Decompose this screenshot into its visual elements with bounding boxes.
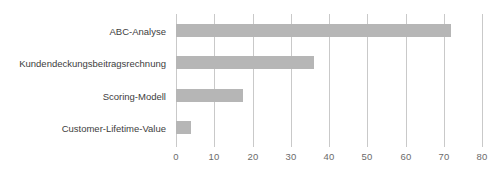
xtick-label-40: 40: [309, 151, 349, 162]
bar-kundendeckungsbeitragsrechnung: [176, 56, 314, 69]
axis-tick-30: [291, 142, 292, 147]
axis-tick-20: [253, 142, 254, 147]
axis-tick-60: [406, 142, 407, 147]
xtick-label-0: 0: [156, 151, 196, 162]
category-label-scoring-modell: Scoring-Modell: [103, 91, 166, 102]
axis-tick-40: [329, 142, 330, 147]
xtick-label-50: 50: [347, 151, 387, 162]
axis-tick-0: [176, 142, 177, 147]
bar-abc-analyse: [176, 24, 451, 37]
xtick-label-70: 70: [424, 151, 464, 162]
bar-customer-lifetime-value: [176, 121, 191, 134]
category-label-customer-lifetime-value: Customer-Lifetime-Value: [62, 123, 166, 134]
xtick-label-10: 10: [194, 151, 234, 162]
xtick-label-20: 20: [233, 151, 273, 162]
axis-tick-70: [444, 142, 445, 147]
category-axis: ABC-Analyse Kundendeckungsbeitragsrechnu…: [0, 0, 171, 171]
axis-tick-80: [482, 142, 483, 147]
gridline-80: [482, 14, 483, 142]
category-label-abc-analyse: ABC-Analyse: [110, 26, 167, 37]
axis-tick-50: [367, 142, 368, 147]
category-label-kundendeckungsbeitragsrechnung: Kundendeckungsbeitragsrechnung: [19, 58, 166, 69]
bar-chart: ABC-Analyse Kundendeckungsbeitragsrechnu…: [0, 0, 496, 171]
xtick-label-60: 60: [386, 151, 426, 162]
xtick-label-80: 80: [462, 151, 496, 162]
plot-area: 0 10 20 30 40 50 60 70 80: [176, 14, 482, 142]
axis-tick-10: [214, 142, 215, 147]
xtick-label-30: 30: [271, 151, 311, 162]
bar-scoring-modell: [176, 89, 243, 102]
